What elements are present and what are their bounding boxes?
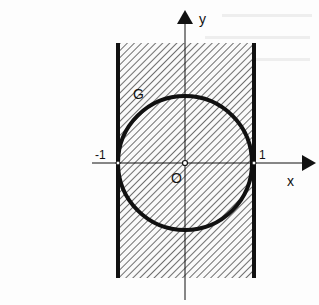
x-axis-arrow-icon	[302, 155, 316, 171]
y-axis-label: y	[199, 11, 206, 27]
tick-label-minus-one: -1	[95, 148, 106, 162]
origin-point	[183, 161, 188, 166]
curve-label-g: G	[133, 86, 144, 102]
tick-label-one: 1	[259, 148, 266, 162]
point-minus-one	[116, 161, 120, 165]
y-axis-arrow-icon	[177, 10, 193, 24]
diagram-canvas: y x O G -1 1	[0, 0, 319, 305]
x-axis-label: x	[287, 173, 294, 189]
point-one	[252, 161, 256, 165]
origin-label: O	[171, 170, 182, 186]
